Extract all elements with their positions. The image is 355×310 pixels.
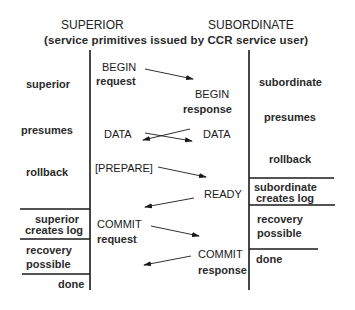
subordinate-state-creates-log-2: creates log <box>256 193 314 204</box>
msg-data-superior: DATA <box>104 129 132 140</box>
diagram-subtitle: (service primitives issued by CCR servic… <box>44 35 308 47</box>
data-arrow-backward <box>143 129 190 140</box>
begin-arrow <box>145 69 193 79</box>
subordinate-title: SUBORDINATE <box>208 19 294 31</box>
superior-title: SUPERIOR <box>61 19 124 31</box>
commit-request-arrow <box>151 226 199 236</box>
msg-begin-response-1: BEGIN <box>195 89 229 100</box>
subordinate-state-subordinate: subordinate <box>259 77 322 88</box>
msg-commit-request-1: COMMIT <box>97 219 142 230</box>
msg-data-subordinate: DATA <box>203 129 231 140</box>
msg-begin-request-1: BEGIN <box>102 62 136 73</box>
msg-begin-request-2: request <box>96 76 136 87</box>
superior-state-recovery-2: possible <box>26 259 71 270</box>
superior-state-recovery-1: recovery <box>26 245 72 256</box>
msg-commit-response-1: COMMIT <box>198 249 243 260</box>
msg-prepare: [PREPARE] <box>95 163 153 174</box>
superior-state-done: done <box>58 279 84 290</box>
msg-ready: READY <box>204 189 242 200</box>
superior-state-rollback: rollback <box>26 167 68 178</box>
superior-state-superior: superior <box>26 79 70 90</box>
msg-begin-response-2: response <box>183 104 232 115</box>
msg-commit-request-2: request <box>97 234 137 245</box>
subordinate-state-rollback: rollback <box>269 154 311 165</box>
prepare-arrow <box>158 167 206 177</box>
subordinate-state-recovery-1: recovery <box>257 214 303 225</box>
superior-state-creates-log-2: creates log <box>25 225 83 236</box>
commit-response-arrow <box>144 256 191 265</box>
ready-arrow <box>145 198 194 207</box>
subordinate-state-recovery-2: possible <box>257 228 302 239</box>
msg-commit-response-2: response <box>198 265 247 276</box>
subordinate-state-done: done <box>256 254 282 265</box>
superior-state-presumes: presumes <box>21 125 73 136</box>
subordinate-state-presumes: presumes <box>264 112 316 123</box>
